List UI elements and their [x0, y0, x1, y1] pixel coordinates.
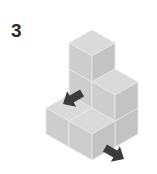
isometric-cube-structure	[0, 0, 157, 174]
